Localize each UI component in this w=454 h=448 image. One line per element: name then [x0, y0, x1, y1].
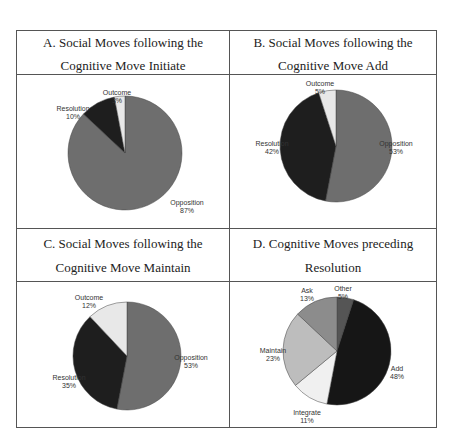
pie-chart-d: Other5%Add48%Integrate11%Maintain23%Ask1… [230, 282, 436, 427]
slice-label: Opposition [174, 354, 208, 362]
panel-b-title-line1: B. Social Moves following the [230, 35, 436, 51]
slice-label: Other [334, 285, 352, 292]
panel-b-header: B. Social Moves following the Cognitive … [230, 31, 436, 75]
slice-percent: 13% [300, 295, 314, 302]
slice-label: Outcome [103, 89, 132, 96]
pie-chart-b: Opposition53%Resolution42%Outcome5% [230, 75, 436, 228]
slice-percent: 53% [184, 362, 198, 369]
slice-label: Opposition [379, 140, 413, 148]
panel-c-header: C. Social Moves following the Cognitive … [17, 229, 229, 282]
slice-percent: 48% [390, 373, 404, 380]
row-divider [17, 228, 436, 229]
slice-percent: 12% [82, 302, 96, 309]
slice-percent: 42% [265, 148, 279, 155]
slice-percent: 10% [66, 113, 80, 120]
slice-percent: 5% [315, 88, 325, 95]
panel-a-chart: Opposition87%Resolution10%Outcome3% [17, 75, 229, 228]
slice-label: Resolution [56, 105, 89, 112]
panel-d-title-line2: Resolution [230, 260, 436, 276]
panel-a-title-line1: A. Social Moves following the [17, 35, 229, 51]
panel-d-chart: Other5%Add48%Integrate11%Maintain23%Ask1… [230, 282, 436, 427]
pie-chart-c: Opposition53%Resolution35%Outcome12% [17, 282, 229, 427]
slice-percent: 5% [338, 293, 348, 300]
slice-label: Add [391, 365, 404, 372]
slice-percent: 53% [389, 148, 403, 155]
panel-b-title-line2: Cognitive Move Add [230, 58, 436, 74]
chart-grid: A. Social Moves following the Cognitive … [16, 30, 437, 428]
slice-label: Integrate [293, 409, 321, 417]
pie-chart-a: Opposition87%Resolution10%Outcome3% [17, 75, 229, 228]
slice-label: Outcome [306, 80, 335, 87]
column-divider [229, 31, 230, 427]
panel-c-title-line2: Cognitive Move Maintain [17, 260, 229, 276]
slice-label: Outcome [75, 294, 104, 301]
slice-label: Opposition [170, 199, 204, 207]
panel-b-chart: Opposition53%Resolution42%Outcome5% [230, 75, 436, 228]
slice-percent: 87% [180, 207, 194, 214]
panel-d-header: D. Cognitive Moves preceding Resolution [230, 229, 436, 282]
slice-label: Ask [301, 287, 313, 294]
slice-label: Resolution [255, 140, 288, 147]
slice-label: Resolution [52, 374, 85, 381]
panel-c-title-line1: C. Social Moves following the [17, 236, 229, 252]
panel-a-header: A. Social Moves following the Cognitive … [17, 31, 229, 75]
slice-percent: 35% [62, 382, 76, 389]
slice-label: Maintain [260, 347, 287, 354]
slice-percent: 23% [266, 355, 280, 362]
panel-a-title-line2: Cognitive Move Initiate [17, 58, 229, 74]
slice-percent: 3% [112, 97, 122, 104]
panel-c-chart: Opposition53%Resolution35%Outcome12% [17, 282, 229, 427]
panel-d-title-line1: D. Cognitive Moves preceding [230, 236, 436, 252]
slice-percent: 11% [300, 417, 314, 424]
